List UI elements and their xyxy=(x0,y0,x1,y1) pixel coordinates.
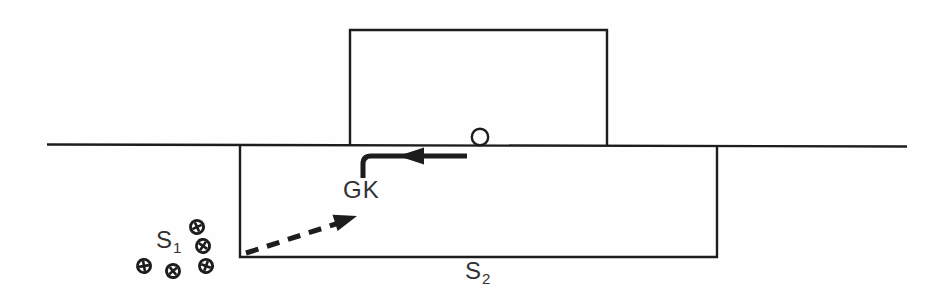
lower-box-outline xyxy=(240,145,717,257)
ball-icon xyxy=(472,129,488,145)
spectator-ball-icon xyxy=(195,255,216,276)
spectator-group-1-label: S1 xyxy=(156,228,181,252)
spectator-group-2-subscript: 2 xyxy=(482,270,490,287)
spectator-ball-icon xyxy=(194,237,213,256)
spectator-group-1-subscript: 1 xyxy=(173,239,181,256)
spectator-group-1-letter: S xyxy=(156,226,173,253)
spectator-ball-icon xyxy=(187,217,208,238)
spectator-group-2-label: S2 xyxy=(465,259,490,283)
spectator-ball-icon xyxy=(164,262,181,279)
spectator-ball-icon xyxy=(133,255,155,277)
dashed-arrow-shaft xyxy=(246,223,339,253)
goalkeeper-label: GK xyxy=(343,178,380,202)
spectator-group-2-letter: S xyxy=(465,257,482,284)
diagram-stage: GK S1 S2 xyxy=(0,0,952,306)
gk-arrow-head-icon xyxy=(398,148,424,165)
dashed-arrow-head-icon xyxy=(333,215,357,231)
